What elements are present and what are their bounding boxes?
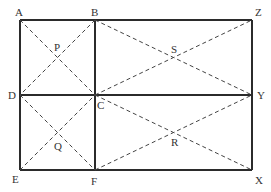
label-E: E [12, 173, 19, 185]
label-A: A [15, 6, 23, 18]
label-B: B [91, 6, 98, 18]
label-X: X [255, 174, 263, 186]
label-C: C [97, 99, 104, 111]
label-Q: Q [54, 140, 62, 152]
label-Y: Y [257, 89, 265, 101]
label-S: S [171, 43, 177, 55]
geometry-diagram: A B Z D C Y E F X P Q S R [0, 0, 271, 192]
label-F: F [91, 175, 97, 187]
label-Z: Z [255, 6, 262, 18]
label-R: R [171, 136, 179, 148]
label-D: D [8, 89, 16, 101]
label-P: P [54, 41, 60, 53]
